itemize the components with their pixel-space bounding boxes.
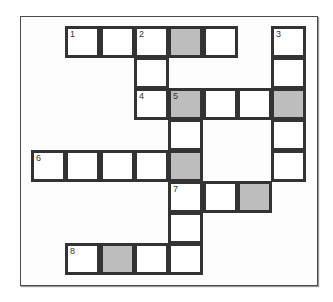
crossword-cell[interactable] — [65, 150, 100, 182]
crossword-cell[interactable]: 8 — [65, 243, 100, 275]
crossword-cell[interactable] — [100, 26, 135, 58]
crossword-cell-shaded[interactable] — [237, 181, 272, 213]
crossword-cell-shaded[interactable] — [100, 243, 135, 275]
crossword-cell[interactable] — [134, 243, 169, 275]
crossword-cell[interactable]: 1 — [65, 26, 100, 58]
clue-number: 4 — [139, 91, 144, 101]
crossword-cell[interactable] — [237, 88, 272, 120]
crossword-cell-shaded[interactable] — [168, 150, 203, 182]
clue-number: 8 — [70, 246, 75, 256]
clue-number: 7 — [173, 184, 178, 194]
clue-number: 6 — [36, 153, 41, 163]
crossword-cell[interactable] — [271, 150, 306, 182]
crossword-cell[interactable] — [168, 119, 203, 151]
crossword-cell[interactable] — [134, 57, 169, 89]
crossword-cell[interactable] — [271, 119, 306, 151]
crossword-cell[interactable] — [100, 150, 135, 182]
clue-number: 5 — [173, 91, 178, 101]
crossword-cell[interactable] — [203, 181, 238, 213]
crossword-cell[interactable]: 3 — [271, 26, 306, 58]
crossword-cell[interactable]: 2 — [134, 26, 169, 58]
crossword-cell[interactable] — [203, 26, 238, 58]
crossword-cell[interactable] — [168, 212, 203, 244]
crossword-cell[interactable]: 4 — [134, 88, 169, 120]
crossword-cell-shaded[interactable]: 5 — [168, 88, 203, 120]
crossword-cell[interactable] — [271, 57, 306, 89]
crossword-cell-shaded[interactable] — [271, 88, 306, 120]
crossword-cell[interactable]: 7 — [168, 181, 203, 213]
crossword-cell-shaded[interactable] — [168, 26, 203, 58]
crossword-cell[interactable] — [134, 150, 169, 182]
clue-number: 2 — [139, 29, 144, 39]
clue-number: 3 — [276, 29, 281, 39]
crossword-cell[interactable]: 6 — [31, 150, 66, 182]
crossword-cell[interactable] — [203, 88, 238, 120]
crossword-cell[interactable] — [168, 243, 203, 275]
clue-number: 1 — [70, 29, 75, 39]
